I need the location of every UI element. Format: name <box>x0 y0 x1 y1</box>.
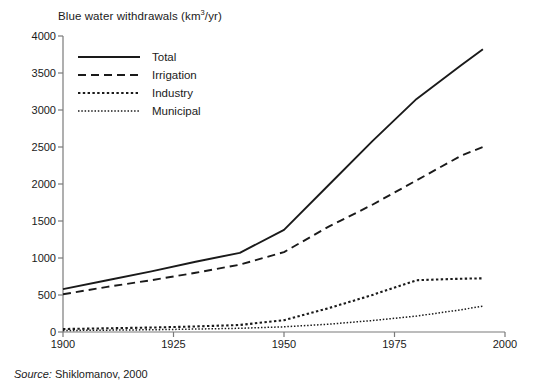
y-tick-label: 2000 <box>10 178 56 190</box>
legend-swatch-total <box>78 51 140 63</box>
series-line-irrigation <box>63 147 483 294</box>
legend-swatch-irrigation <box>78 69 140 81</box>
source-citation: Shiklomanov, 2000 <box>52 368 148 380</box>
y-tick-label: 0 <box>10 326 56 338</box>
legend-label-municipal: Municipal <box>152 105 201 117</box>
legend-swatch-industry <box>78 87 140 99</box>
y-tick-label: 3500 <box>10 67 56 79</box>
y-tick-label: 1000 <box>10 252 56 264</box>
y-tick-label: 4000 <box>10 30 56 42</box>
y-tick-label: 3000 <box>10 104 56 116</box>
legend-item-industry: Industry <box>78 84 201 102</box>
chart-legend: TotalIrrigationIndustryMunicipal <box>78 48 201 120</box>
legend-label-total: Total <box>152 51 176 63</box>
legend-item-total: Total <box>78 48 201 66</box>
x-tick-label: 1950 <box>254 338 314 350</box>
x-tick-label: 2000 <box>475 338 535 350</box>
y-tick-label: 1500 <box>10 215 56 227</box>
legend-item-municipal: Municipal <box>78 102 201 120</box>
legend-label-irrigation: Irrigation <box>152 69 197 81</box>
source-label: Source: <box>14 368 52 380</box>
source-note: Source: Shiklomanov, 2000 <box>14 368 148 380</box>
series-line-industry <box>63 278 483 329</box>
legend-label-industry: Industry <box>152 87 193 99</box>
y-tick-label: 500 <box>10 289 56 301</box>
chart-container: Blue water withdrawals (km3/yr) 05001000… <box>0 0 538 391</box>
y-tick-label: 2500 <box>10 141 56 153</box>
x-tick-label: 1975 <box>365 338 425 350</box>
series-line-municipal <box>63 306 483 330</box>
legend-swatch-municipal <box>78 105 140 117</box>
legend-item-irrigation: Irrigation <box>78 66 201 84</box>
x-tick-label: 1925 <box>144 338 204 350</box>
x-tick-label: 1900 <box>33 338 93 350</box>
